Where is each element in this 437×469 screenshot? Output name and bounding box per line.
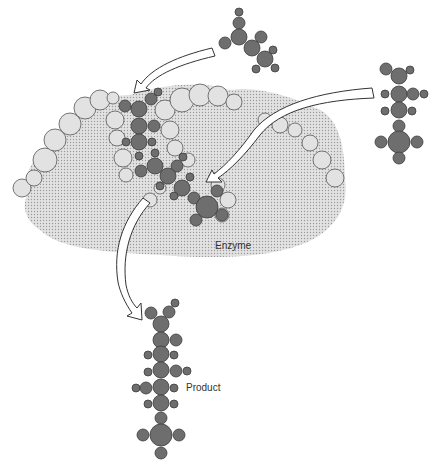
product-label: Product	[186, 382, 220, 393]
enzyme-label: Enzyme	[215, 240, 251, 251]
substrate-molecule-1	[219, 8, 279, 73]
enzyme-diagram	[0, 0, 437, 469]
product-molecule	[132, 299, 191, 459]
substrate-molecule-2	[375, 63, 428, 164]
